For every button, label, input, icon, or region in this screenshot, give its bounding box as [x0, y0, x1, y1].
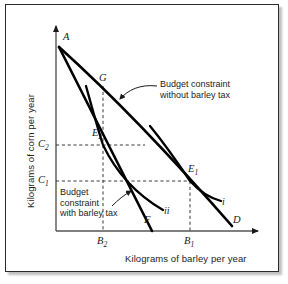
point-label-e2: E2 [92, 127, 102, 141]
point-label-a: A [63, 31, 69, 42]
annotation-no-tax-line1: Budget constraint [160, 79, 230, 90]
tick-label-b2: B2 [97, 235, 107, 249]
annotation-no-tax: Budget constraint without barley tax [160, 79, 230, 100]
tick-label-c1-sub: 1 [45, 179, 49, 188]
annotation-with-tax-line1: Budget [60, 187, 118, 198]
annotation-with-tax-line2: constraint [60, 198, 118, 209]
tick-label-c1: C1 [38, 174, 49, 188]
tick-label-c1-letter: C [38, 174, 45, 185]
tick-label-b2-sub: 2 [103, 240, 107, 249]
point-label-d: D [233, 214, 241, 225]
annotation-no-tax-line2: without barley tax [160, 90, 230, 101]
curve-label-ii: ii [164, 205, 170, 216]
point-label-g: G [99, 72, 107, 83]
x-axis-label: Kilograms of barley per year [125, 253, 247, 264]
leader-line-no-tax [120, 86, 157, 99]
figure-container: Kilograms of corn per year Kilograms of … [0, 0, 288, 284]
annotation-with-tax-line3: with barley tax [60, 208, 118, 219]
tick-label-c2: C2 [38, 138, 49, 152]
tick-label-b1-sub: 1 [190, 240, 194, 249]
y-axis-label: Kilograms of corn per year [25, 94, 36, 208]
point-label-f: F [144, 214, 150, 225]
annotation-with-tax: Budget constraint with barley tax [60, 187, 118, 219]
curve-label-i: i [222, 196, 225, 207]
tick-label-c2-letter: C [38, 138, 45, 149]
point-label-e2-sub: 2 [98, 132, 102, 141]
indifference-curve-i [150, 126, 221, 201]
point-label-e1-sub: 1 [194, 168, 198, 177]
tick-label-b1: B1 [184, 235, 194, 249]
point-label-e1: E1 [188, 163, 198, 177]
tick-label-c2-sub: 2 [45, 143, 49, 152]
